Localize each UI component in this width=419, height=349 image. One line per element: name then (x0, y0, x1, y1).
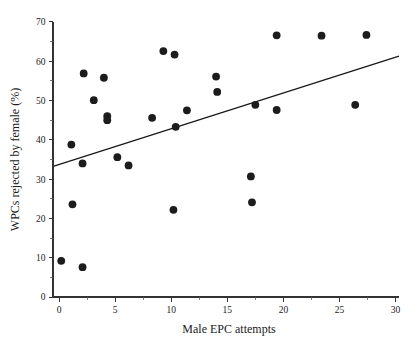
y-tick-label: 30 (36, 175, 46, 185)
chart-canvas: 010203040506070051015202530Male EPC atte… (0, 0, 419, 349)
data-point[interactable] (67, 141, 75, 149)
x-tick-label: 15 (223, 305, 233, 315)
data-point[interactable] (273, 31, 281, 39)
x-tick-label: 25 (335, 305, 345, 315)
x-tick-label: 30 (391, 305, 401, 315)
data-point[interactable] (318, 32, 326, 40)
data-point[interactable] (80, 70, 88, 78)
data-point[interactable] (69, 200, 77, 208)
y-tick-label: 50 (36, 96, 46, 106)
x-tick-label: 5 (113, 305, 118, 315)
x-tick-label: 10 (166, 305, 176, 315)
x-axis-title: Male EPC attempts (182, 322, 276, 336)
y-tick-label: 60 (36, 57, 46, 67)
y-tick-label: 10 (36, 253, 46, 263)
data-point[interactable] (212, 73, 220, 81)
data-point[interactable] (251, 101, 259, 109)
y-tick-label: 70 (36, 17, 46, 27)
data-point[interactable] (159, 47, 167, 55)
y-tick-label: 20 (36, 214, 46, 224)
scatter-plot-figure: 010203040506070051015202530Male EPC atte… (0, 0, 419, 349)
data-point[interactable] (125, 161, 133, 169)
data-point[interactable] (148, 114, 156, 122)
data-point[interactable] (172, 123, 180, 131)
y-tick-label: 40 (36, 135, 46, 145)
data-point[interactable] (247, 172, 255, 180)
data-point[interactable] (100, 74, 108, 82)
data-point[interactable] (351, 101, 359, 109)
data-point[interactable] (113, 153, 121, 161)
data-point[interactable] (248, 198, 256, 206)
x-tick-label: 0 (57, 305, 62, 315)
data-point[interactable] (363, 31, 371, 39)
data-point[interactable] (103, 116, 111, 124)
y-axis-title: WPCs rejected by female (%) (8, 88, 22, 231)
data-point[interactable] (171, 51, 179, 59)
data-point[interactable] (213, 88, 221, 96)
data-point[interactable] (79, 263, 87, 271)
x-tick-label: 20 (279, 305, 289, 315)
data-point[interactable] (183, 106, 191, 114)
data-point[interactable] (79, 160, 87, 168)
y-tick-label: 0 (41, 292, 46, 302)
regression-line (54, 56, 399, 166)
data-point[interactable] (170, 206, 178, 214)
data-point[interactable] (273, 106, 281, 114)
data-point[interactable] (57, 257, 65, 265)
data-point[interactable] (90, 96, 98, 104)
